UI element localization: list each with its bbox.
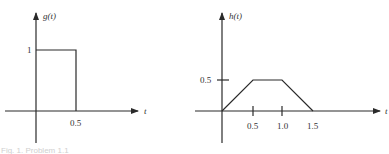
g-x-label: t: [144, 106, 147, 116]
h-y-label: h(t): [229, 11, 242, 21]
h-trapezoid: [222, 80, 313, 111]
plot-h: h(t) t 0.5 0.5 1.0 1.5: [195, 11, 388, 143]
h-xtick-0.5: 0.5: [247, 121, 259, 131]
g-ytick-1: 1: [27, 45, 32, 55]
h-xtick-1.5: 1.5: [307, 121, 319, 131]
g-pulse: [36, 50, 76, 111]
figure-caption: Fig. 1. Problem 1.1: [1, 146, 69, 154]
g-xtick-0.5: 0.5: [70, 118, 82, 128]
g-y-label: g(t): [43, 11, 56, 21]
figure-canvas: g(t) t 1 0.5 h(t) t 0.5 0.5 1.0 1.5 Fig.…: [0, 0, 389, 154]
h-x-label: t: [385, 106, 388, 116]
h-xtick-1.0: 1.0: [277, 121, 289, 131]
plot-g: g(t) t 1 0.5: [5, 11, 147, 143]
h-ytick-0.5: 0.5: [200, 75, 212, 85]
